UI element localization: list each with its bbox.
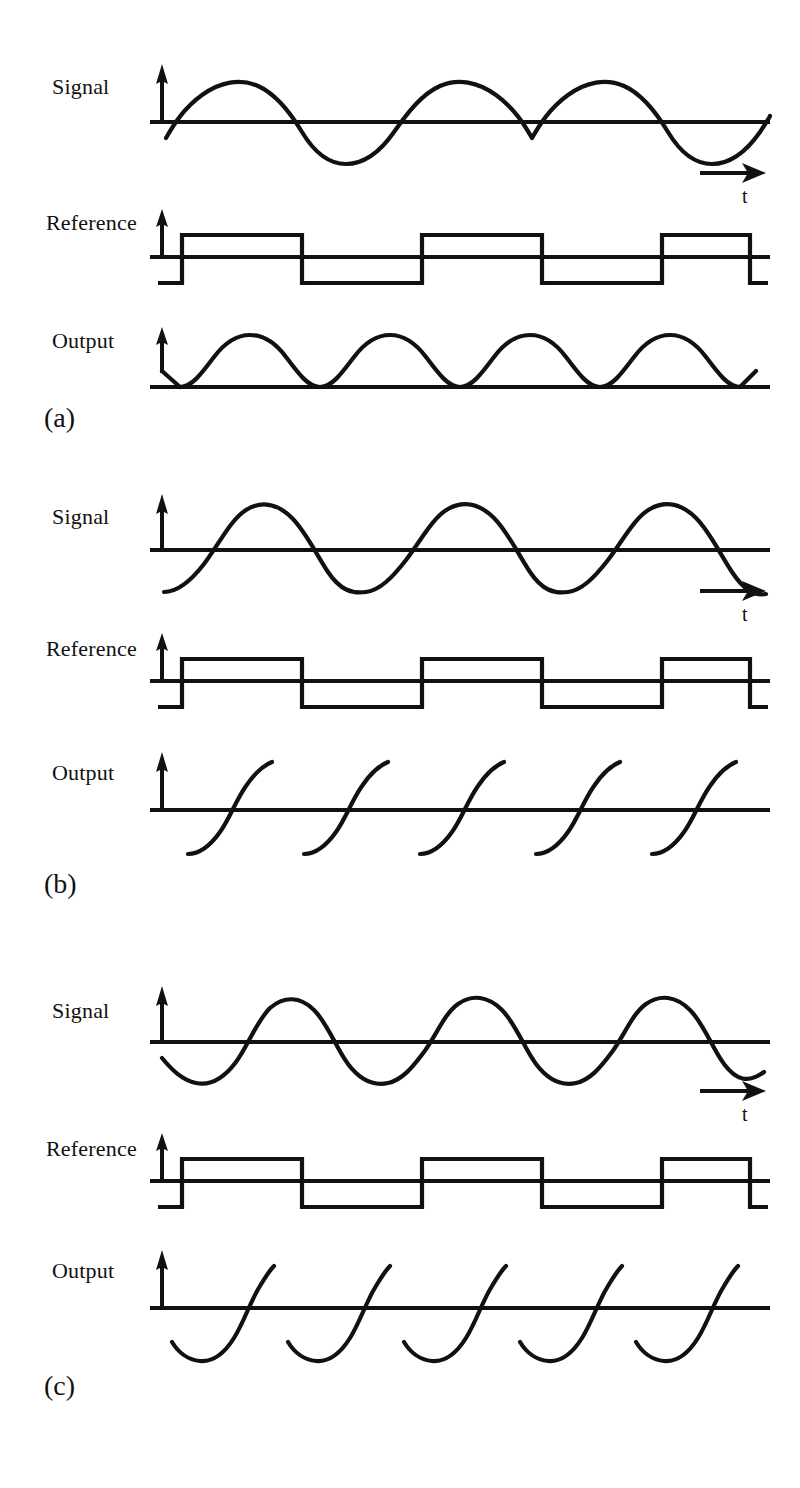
panel-c-output-y-arrow (156, 1250, 168, 1306)
panel-a-signal-label: Signal (52, 76, 109, 98)
panel-c-output-wave-seg3 (404, 1266, 506, 1361)
panel-c-output-plot (150, 1250, 770, 1375)
panel-c-signal-label: Signal (52, 1000, 109, 1022)
panel-b-caption: (b) (44, 870, 77, 898)
panel-a-reference-y-arrow (156, 209, 168, 257)
panel-b-output-plot (150, 750, 770, 875)
panel-c-signal-y-arrow (156, 986, 168, 1042)
panel-a-reference-plot (150, 205, 770, 300)
panel-b-time-arrow (700, 578, 770, 604)
panel-b-reference-y-arrow (156, 633, 168, 681)
panel-c-signal-plot (150, 978, 770, 1098)
panel-a-output-wave (162, 335, 756, 387)
panel-c: Signal t Reference (0, 960, 800, 1430)
panel-b-signal-y-arrow (156, 494, 168, 550)
panel-c-time-label: t (742, 1104, 748, 1124)
panel-a-output-y-arrow (156, 327, 168, 373)
panel-a-reference-label: Reference (46, 212, 137, 234)
panel-c-reference-y-arrow (156, 1133, 168, 1181)
panel-b-time-label: t (742, 604, 748, 624)
panel-a-caption: (a) (44, 404, 75, 432)
panel-b-output-y-arrow (156, 752, 168, 808)
panel-b-output-label: Output (52, 762, 114, 784)
panel-c-output-wave (172, 1266, 274, 1361)
panel-c-output-wave-seg5 (636, 1266, 738, 1361)
panel-b-signal-label: Signal (52, 506, 109, 528)
panel-b-signal-plot (150, 484, 770, 604)
panel-a-time-label: t (742, 186, 748, 206)
panel-c-output-label: Output (52, 1260, 114, 1282)
panel-b: Signal t Reference (0, 470, 800, 940)
panel-c-output-wave-seg4 (520, 1266, 622, 1361)
panel-a: Signal t Reference (0, 0, 800, 470)
panel-c-output-wave-seg2 (288, 1266, 390, 1361)
panel-c-caption: (c) (44, 1372, 75, 1400)
panel-a-output-plot (150, 325, 770, 405)
panel-a-signal-y-arrow (156, 64, 168, 122)
panel-a-time-arrow (700, 160, 770, 186)
panel-c-reference-label: Reference (46, 1138, 137, 1160)
lockin-waveform-figure: Signal t Reference (0, 0, 800, 1488)
panel-b-reference-plot (150, 631, 770, 726)
panel-c-reference-plot (150, 1131, 770, 1226)
panel-c-time-arrow (700, 1078, 770, 1104)
panel-a-signal-plot (150, 50, 770, 170)
panel-b-reference-label: Reference (46, 638, 137, 660)
panel-a-output-label: Output (52, 330, 114, 352)
